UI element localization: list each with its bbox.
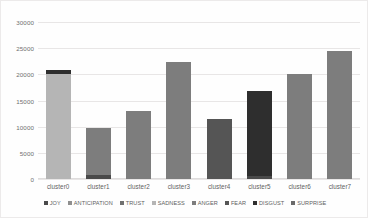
y-axis-tick-label: 30000 bbox=[16, 19, 34, 26]
legend-item[interactable]: ANTICIPATION bbox=[68, 200, 113, 206]
bar-segment[interactable] bbox=[247, 176, 272, 179]
legend-item[interactable]: ANGER bbox=[192, 200, 218, 206]
bar-stack[interactable] bbox=[46, 70, 71, 179]
bar-stack[interactable] bbox=[126, 111, 151, 179]
gridline bbox=[38, 179, 360, 180]
bar-segment[interactable] bbox=[86, 175, 111, 179]
legend-item[interactable]: SADNESS bbox=[152, 200, 185, 206]
x-axis-category-label: cluster7 bbox=[320, 181, 360, 192]
x-axis-category-label: cluster0 bbox=[38, 181, 78, 192]
bar-slot[interactable] bbox=[280, 22, 320, 179]
legend-label: TRUST bbox=[126, 200, 145, 206]
bar-stack[interactable] bbox=[166, 62, 191, 179]
y-axis-tick-label: 5000 bbox=[20, 149, 34, 156]
bar-slot[interactable] bbox=[320, 22, 360, 179]
legend-label: SURPRISE bbox=[297, 200, 326, 206]
legend-swatch-icon bbox=[291, 201, 295, 205]
bar-segment[interactable] bbox=[46, 74, 71, 179]
bar-chart: 050001000015000200002500030000 cluster0c… bbox=[0, 0, 368, 218]
legend-swatch-icon bbox=[44, 201, 48, 205]
legend-swatch-icon bbox=[192, 201, 196, 205]
y-axis-tick-label: 20000 bbox=[16, 71, 34, 78]
bar-stack[interactable] bbox=[287, 74, 312, 179]
bar-segment[interactable] bbox=[207, 119, 232, 179]
bar-stack[interactable] bbox=[327, 51, 352, 179]
legend-swatch-icon bbox=[253, 201, 257, 205]
x-axis-category-label: cluster3 bbox=[159, 181, 199, 192]
legend-label: DISGUST bbox=[259, 200, 284, 206]
bar-stack[interactable] bbox=[86, 128, 111, 179]
legend-item[interactable]: TRUST bbox=[120, 200, 145, 206]
bar-segment[interactable] bbox=[247, 91, 272, 176]
legend-item[interactable]: DISGUST bbox=[253, 200, 284, 206]
bar-segment[interactable] bbox=[287, 74, 312, 179]
legend-label: SADNESS bbox=[158, 200, 185, 206]
bar-segment[interactable] bbox=[327, 51, 352, 179]
bar-segment[interactable] bbox=[166, 62, 191, 179]
legend-swatch-icon bbox=[68, 201, 72, 205]
x-axis-categories: cluster0cluster1cluster2cluster3cluster4… bbox=[38, 181, 360, 192]
bar-slot[interactable] bbox=[38, 22, 78, 179]
bar-stack[interactable] bbox=[247, 91, 272, 179]
x-axis-category-label: cluster1 bbox=[78, 181, 118, 192]
legend-label: ANGER bbox=[198, 200, 218, 206]
x-axis-category-label: cluster4 bbox=[199, 181, 239, 192]
bar-series-group bbox=[38, 22, 360, 179]
y-axis-tick-label: 10000 bbox=[16, 123, 34, 130]
legend-label: FEAR bbox=[231, 200, 246, 206]
bar-slot[interactable] bbox=[199, 22, 239, 179]
bar-slot[interactable] bbox=[159, 22, 199, 179]
bar-stack[interactable] bbox=[207, 119, 232, 179]
plot-area: 050001000015000200002500030000 bbox=[38, 22, 360, 179]
bar-segment[interactable] bbox=[86, 128, 111, 175]
x-axis-category-label: cluster6 bbox=[280, 181, 320, 192]
legend-item[interactable]: SURPRISE bbox=[291, 200, 326, 206]
legend-label: ANTICIPATION bbox=[74, 200, 113, 206]
bar-segment[interactable] bbox=[126, 111, 151, 179]
bar-slot[interactable] bbox=[119, 22, 159, 179]
bar-slot[interactable] bbox=[239, 22, 279, 179]
y-axis-tick-label: 15000 bbox=[16, 97, 34, 104]
x-axis-category-label: cluster2 bbox=[119, 181, 159, 192]
bar-slot[interactable] bbox=[78, 22, 118, 179]
legend-label: JOY bbox=[50, 200, 61, 206]
y-axis-tick-label: 0 bbox=[30, 176, 34, 183]
y-axis-tick-label: 25000 bbox=[16, 45, 34, 52]
legend-item[interactable]: JOY bbox=[44, 200, 61, 206]
legend-item[interactable]: FEAR bbox=[225, 200, 246, 206]
legend-swatch-icon bbox=[152, 201, 156, 205]
x-axis-category-label: cluster5 bbox=[239, 181, 279, 192]
legend-swatch-icon bbox=[120, 201, 124, 205]
chart-legend: JOYANTICIPATIONTRUSTSADNESSANGERFEARDISG… bbox=[1, 197, 368, 209]
legend-swatch-icon bbox=[225, 201, 229, 205]
